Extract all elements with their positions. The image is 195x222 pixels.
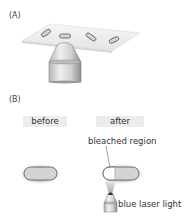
after-label: after <box>96 116 144 127</box>
diagram-canvas <box>0 0 195 222</box>
blue-laser-light-label: blue laser light <box>118 199 181 209</box>
microscope-slide <box>22 24 140 53</box>
cell-before <box>18 163 62 185</box>
laser-beam <box>105 181 116 194</box>
before-label: before <box>23 116 67 127</box>
panel-b-label: (B) <box>9 95 21 104</box>
laser-objective-icon <box>104 193 117 213</box>
bleached-region-label: bleached region <box>88 136 156 146</box>
